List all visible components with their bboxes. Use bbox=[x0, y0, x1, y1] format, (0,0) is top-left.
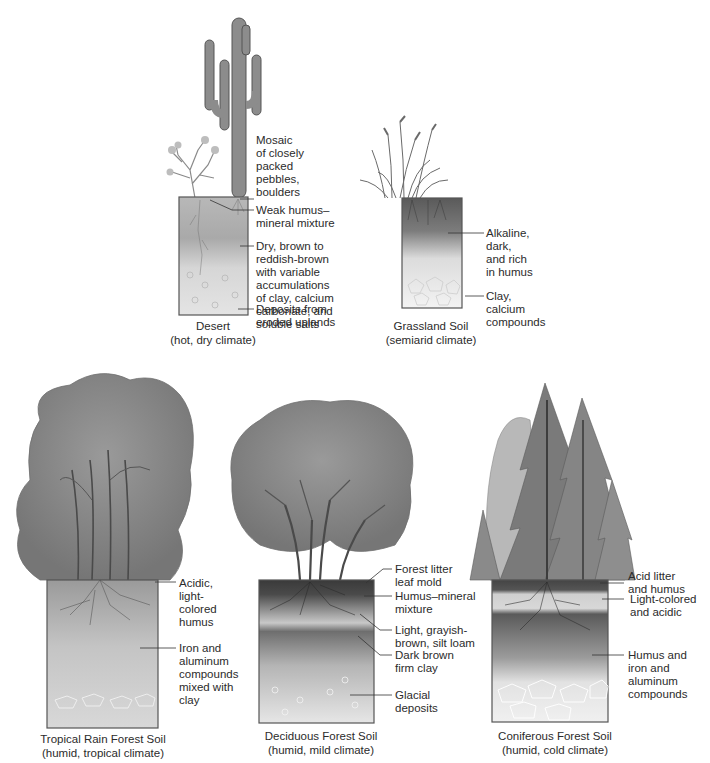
desert-caption: Desert (hot, dry climate) bbox=[148, 320, 278, 347]
grass-icon bbox=[360, 116, 448, 198]
desert-label-humus: Weak humus– mineral mixture bbox=[256, 204, 335, 230]
broadleaf-tree-icon bbox=[231, 400, 413, 580]
coniferous-profile bbox=[470, 383, 635, 722]
deciduous-label-humus: Humus–mineral mixture bbox=[395, 590, 476, 616]
desert-label-surface: Mosaic of closely packed pebbles, boulde… bbox=[256, 134, 304, 199]
deciduous-label-glacial: Glacial deposits bbox=[395, 689, 438, 715]
desert-shrub-icon bbox=[167, 136, 220, 198]
grassland-soil-column bbox=[402, 198, 462, 308]
tropical-profile bbox=[17, 374, 194, 728]
deciduous-soil-column bbox=[259, 580, 374, 723]
coniferous-label-iron: Humus and iron and aluminum compounds bbox=[628, 649, 687, 701]
grassland-profile bbox=[360, 116, 484, 308]
tropical-label-humus: Acidic, light- colored humus bbox=[179, 577, 217, 629]
coniferous-label-light: Light-colored and acidic bbox=[630, 593, 696, 619]
conifer-trees-icon bbox=[470, 383, 635, 580]
soil-profiles-illustration bbox=[0, 0, 710, 763]
saguaro-cactus-icon bbox=[205, 18, 261, 198]
tropical-label-iron: Iron and aluminum compounds mixed with c… bbox=[179, 642, 238, 707]
deciduous-label-silt: Light, grayish- brown, silt loam bbox=[395, 624, 475, 650]
coniferous-soil-column bbox=[492, 580, 608, 722]
tropical-caption: Tropical Rain Forest Soil (humid, tropic… bbox=[10, 733, 196, 760]
deciduous-caption: Deciduous Forest Soil (humid, mild clima… bbox=[246, 730, 396, 757]
coniferous-caption: Coniferous Forest Soil (humid, cold clim… bbox=[480, 730, 630, 757]
deciduous-label-litter: Forest litter leaf mold bbox=[395, 563, 453, 589]
rainforest-trees-icon bbox=[17, 374, 194, 580]
desert-profile bbox=[167, 18, 262, 315]
deciduous-profile bbox=[231, 400, 413, 723]
grassland-label-topsoil: Alkaline, dark, and rich in humus bbox=[486, 227, 533, 279]
deciduous-label-clay: Dark brown firm clay bbox=[395, 649, 454, 675]
grassland-caption: Grassland Soil (semiarid climate) bbox=[366, 320, 496, 347]
